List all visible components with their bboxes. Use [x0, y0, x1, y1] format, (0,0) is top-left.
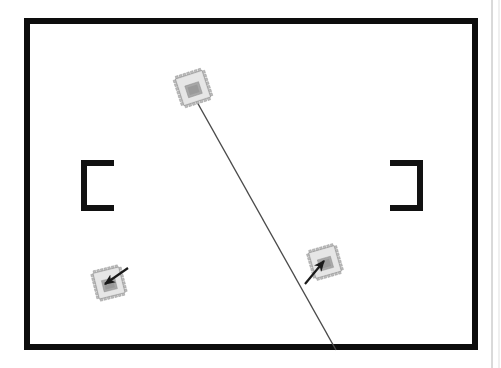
figure-canvas: Top-down schematic scan: bracketed work …	[0, 0, 501, 368]
figure-svg	[0, 0, 501, 368]
paper-background	[0, 0, 501, 368]
